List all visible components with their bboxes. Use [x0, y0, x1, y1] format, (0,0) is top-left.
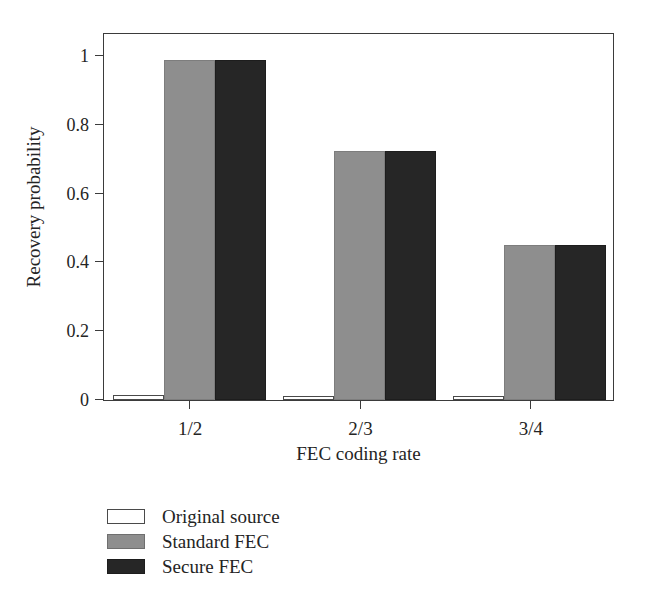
x-axis-tick: 2/3 — [360, 400, 361, 409]
bar — [334, 151, 385, 400]
y-axis-tick-label: 0.4 — [67, 253, 90, 271]
y-axis-tick-label: 0.8 — [67, 116, 90, 134]
y-axis-title: Recovery probability — [23, 107, 45, 307]
y-axis-tick: 0.6 — [95, 193, 104, 194]
y-axis-tick-label: 0 — [80, 391, 89, 409]
bar — [453, 396, 504, 400]
y-axis-tick-label: 1 — [80, 47, 89, 65]
legend-item: Original source — [107, 504, 280, 529]
bar — [164, 60, 215, 400]
y-axis-tick: 0.8 — [95, 124, 104, 125]
x-axis-tick-label: 1/2 — [178, 419, 202, 438]
bar — [113, 395, 164, 400]
y-axis-tick-label: 0.2 — [67, 322, 90, 340]
legend-label: Original source — [162, 507, 280, 526]
chart-legend: Original sourceStandard FECSecure FEC — [107, 504, 280, 579]
legend-label: Secure FEC — [162, 557, 253, 576]
y-axis-tick: 1 — [95, 55, 104, 56]
legend-swatch — [107, 559, 145, 574]
y-axis-tick: 0.2 — [95, 330, 104, 331]
x-axis-title: FEC coding rate — [103, 443, 614, 465]
legend-item: Secure FEC — [107, 554, 280, 579]
x-axis-tick-label: 3/4 — [519, 419, 543, 438]
x-axis-tick-label: 2/3 — [348, 419, 372, 438]
bars-layer — [104, 34, 613, 400]
bar — [555, 245, 606, 400]
legend-item: Standard FEC — [107, 529, 280, 554]
bar — [215, 60, 266, 400]
x-axis-tick: 1/2 — [189, 400, 190, 409]
legend-swatch — [107, 509, 145, 524]
bar — [385, 151, 436, 400]
legend-swatch — [107, 534, 145, 549]
plot-area: 00.20.40.60.81 1/22/33/4 — [103, 33, 614, 401]
bar — [283, 396, 334, 400]
y-axis-tick: 0.4 — [95, 261, 104, 262]
bar-chart-figure: 00.20.40.60.81 1/22/33/4 Recovery probab… — [0, 0, 648, 595]
bar — [504, 245, 555, 400]
x-axis-tick: 3/4 — [530, 400, 531, 409]
y-axis-tick: 0 — [95, 399, 104, 400]
legend-label: Standard FEC — [162, 532, 269, 551]
y-axis-tick-label: 0.6 — [67, 185, 90, 203]
